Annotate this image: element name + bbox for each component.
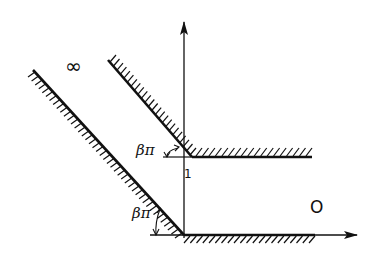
lower-slanted-wall xyxy=(28,70,184,238)
unit-mark-label: 1 xyxy=(184,167,192,181)
upper-horizontal-wall xyxy=(192,148,312,157)
upper-angle-arc xyxy=(164,145,179,157)
origin-label: O xyxy=(310,197,323,217)
infinity-label: ∞ xyxy=(65,54,82,78)
upper-angle-label: βπ xyxy=(135,141,156,159)
channel-diagram: ∞ O 1 βπ βπ xyxy=(0,0,379,267)
lower-horizontal-wall xyxy=(184,235,315,243)
lower-angle-label: βπ xyxy=(131,204,152,222)
